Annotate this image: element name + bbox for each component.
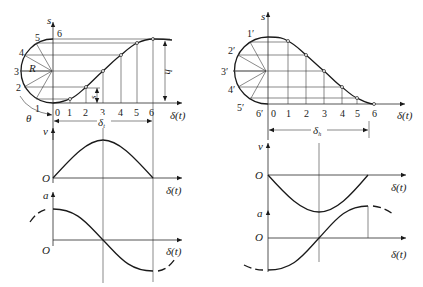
svg-text:s: s (261, 10, 265, 22)
svg-text:4: 4 (340, 108, 345, 119)
svg-text:2: 2 (304, 108, 309, 119)
svg-text:6′: 6′ (256, 108, 263, 119)
s-axis-label-left: s (47, 14, 51, 26)
svg-text:5: 5 (134, 107, 139, 118)
svg-text:a: a (43, 189, 49, 201)
svg-text:3: 3 (322, 108, 327, 119)
svg-text:a: a (257, 207, 263, 219)
svg-text:v: v (258, 140, 263, 152)
svg-text:0: 0 (271, 108, 276, 119)
svg-text:4′: 4′ (228, 84, 235, 95)
svg-text:2′: 2′ (228, 45, 235, 56)
svg-text:1: 1 (67, 107, 72, 118)
tick-labels-right: 0 1 2 3 4 5 6 (271, 108, 377, 119)
harmonic-circle-right (235, 37, 269, 104)
svg-text:3′: 3′ (221, 66, 228, 77)
s-dimension-label: s (88, 95, 98, 99)
svg-text:1′: 1′ (247, 28, 254, 39)
svg-text:6: 6 (149, 107, 154, 118)
right-displacement-diagram: s δ(t) (221, 10, 413, 140)
svg-text:O: O (42, 244, 50, 256)
left-displacement-diagram: s δ(t) (14, 14, 186, 282)
svg-text:O: O (255, 231, 263, 243)
circle-point-labels-right: 1′ 2′ 3′ 4′ 5′ 6′ (221, 28, 263, 119)
svg-text:2: 2 (16, 82, 21, 93)
displacement-curve-right (268, 37, 374, 104)
svg-text:3: 3 (14, 66, 19, 77)
delta-axis-label-left: δ(t) (170, 109, 186, 122)
tick-verticals-left (70, 39, 153, 282)
svg-text:1: 1 (286, 108, 291, 119)
left-acceleration-diagram: a O δ(t) (30, 189, 182, 271)
left-velocity-diagram: v O δ(t) (42, 125, 182, 283)
svg-text:4: 4 (19, 47, 24, 58)
svg-text:δ(t): δ(t) (166, 184, 182, 197)
right-velocity-diagram: v O δ(t) (255, 140, 407, 262)
svg-text:δ(t): δ(t) (397, 109, 413, 122)
cam-motion-diagram: s δ(t) (0, 0, 423, 287)
svg-text:6: 6 (372, 108, 377, 119)
right-acceleration-diagram: a O δ(t) (244, 206, 407, 272)
svg-text:O: O (42, 172, 50, 184)
svg-text:5′: 5′ (237, 102, 244, 113)
projection-lines-right (233, 42, 357, 98)
svg-text:v: v (43, 125, 48, 137)
svg-text:δ(t): δ(t) (391, 248, 407, 261)
svg-text:2: 2 (83, 107, 88, 118)
svg-text:δ(t): δ(t) (166, 245, 182, 258)
projection-lines-left (20, 39, 153, 99)
svg-text:O: O (255, 169, 263, 181)
svg-text:δ(t): δ(t) (391, 181, 407, 194)
velocity-curve-right (268, 175, 368, 212)
svg-text:5: 5 (35, 32, 40, 43)
h-dimension-label: h (163, 69, 175, 75)
svg-text:1: 1 (35, 103, 40, 114)
svg-text:5: 5 (355, 108, 360, 119)
radius-label: R (28, 62, 36, 74)
theta-label: θ (26, 112, 32, 124)
svg-text:0: 0 (55, 107, 60, 118)
svg-text:4: 4 (118, 107, 123, 118)
tick-verticals-right (288, 42, 357, 104)
svg-text:6: 6 (57, 28, 62, 39)
